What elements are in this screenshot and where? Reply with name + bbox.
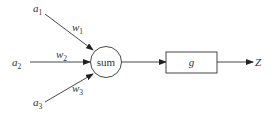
sum-node: sum (91, 47, 122, 78)
edge-a1-sum (45, 14, 93, 50)
activation-box: g (166, 52, 217, 73)
input-label-a3: a3 (33, 96, 43, 111)
input-label-a2: a2 (12, 56, 22, 71)
sum-label: sum (97, 56, 116, 68)
weight-label-w3: w3 (72, 82, 83, 97)
input-label-a1: a1 (33, 2, 43, 17)
output-label: Z (255, 56, 262, 68)
weight-label-w1: w1 (72, 21, 83, 36)
weight-label-w2: w2 (56, 48, 67, 63)
activation-label: g (189, 56, 195, 68)
neuron-diagram: sum g Z a1 a2 a3 w1 w2 w3 (0, 0, 275, 115)
edge-a3-sum (45, 74, 93, 102)
